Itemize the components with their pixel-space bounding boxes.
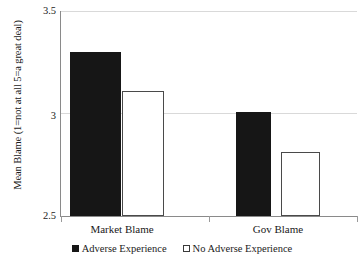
bar-market-blame-adverse-experience	[70, 52, 121, 216]
bar-market-blame-no-adverse-experience	[122, 91, 164, 216]
x-tick-mark-middle	[209, 216, 210, 222]
y-tick-label-3-5: 3.5	[22, 5, 56, 16]
bar-chart: Mean Blame (1=not at all 5=a great deal)…	[0, 0, 364, 259]
bar-gov-blame-no-adverse-experience	[281, 152, 320, 216]
plot-area	[61, 11, 357, 216]
y-tick-label-3: 3	[22, 110, 56, 121]
legend-label-adverse-experience: Adverse Experience	[82, 243, 167, 254]
legend-swatch-hollow-square-icon	[183, 245, 190, 252]
legend-item-no-adverse-experience: No Adverse Experience	[183, 243, 293, 254]
x-category-label-gov-blame: Gov Blame	[215, 222, 341, 236]
legend-label-no-adverse-experience: No Adverse Experience	[193, 243, 293, 254]
y-tick-label-2-5: 2.5	[22, 210, 56, 221]
gridline-3-5	[61, 11, 357, 12]
bar-gov-blame-adverse-experience	[236, 112, 271, 217]
legend-item-adverse-experience: Adverse Experience	[72, 243, 167, 254]
x-category-label-market-blame: Market Blame	[57, 222, 187, 236]
chart-legend: Adverse Experience No Adverse Experience	[0, 240, 364, 256]
y-axis-title: Mean Blame (1=not at all 5=a great deal)	[10, 0, 26, 210]
legend-swatch-filled-square-icon	[72, 245, 79, 252]
x-tick-mark-right	[357, 216, 358, 222]
